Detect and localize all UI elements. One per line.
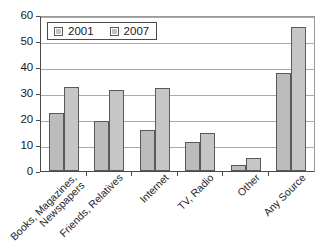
- bar: [291, 27, 306, 171]
- bar-group: [178, 17, 224, 171]
- bar-group: [223, 17, 269, 171]
- legend: 2001 2007: [47, 22, 157, 40]
- y-axis-tick-label: 10: [9, 139, 33, 151]
- y-axis-tick-label: 20: [9, 113, 33, 125]
- legend-label: 2007: [124, 25, 150, 37]
- legend-swatch-icon: [110, 27, 119, 36]
- x-axis-label: TV, Radio: [176, 172, 216, 212]
- y-axis-tick-label: 0: [9, 165, 33, 177]
- bar: [155, 88, 170, 171]
- bar: [200, 133, 215, 171]
- legend-item-2007: 2007: [110, 25, 150, 37]
- bar: [64, 87, 79, 172]
- x-axis-label: Any Source: [262, 172, 308, 218]
- x-axis-label: Other: [236, 172, 262, 198]
- legend-swatch-icon: [54, 27, 63, 36]
- x-axis-labels: Books, Magazines,NewspapersFriends, Rela…: [40, 172, 315, 252]
- bar-group: [132, 17, 178, 171]
- bar: [185, 142, 200, 171]
- legend-item-2001: 2001: [54, 25, 94, 37]
- bar: [231, 165, 246, 171]
- legend-label: 2001: [68, 25, 94, 37]
- x-axis-label: Internet: [137, 172, 170, 205]
- bar: [49, 113, 64, 172]
- y-axis-tick-label: 40: [9, 61, 33, 73]
- bar: [94, 121, 109, 171]
- y-axis-tick-label: 30: [9, 87, 33, 99]
- bar-chart: 0102030405060 2001 2007 Books, Magazines…: [0, 0, 326, 252]
- bar-group: [41, 17, 87, 171]
- bar: [140, 130, 155, 171]
- bar-group: [269, 17, 315, 171]
- y-axis-tick-label: 60: [9, 9, 33, 21]
- bar-groups: [41, 17, 314, 171]
- bar-group: [87, 17, 133, 171]
- bar: [246, 158, 261, 171]
- bar: [109, 90, 124, 171]
- y-axis-tick-label: 50: [9, 35, 33, 47]
- bar: [276, 73, 291, 171]
